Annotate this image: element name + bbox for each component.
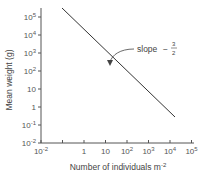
slope-sign: − [163,44,168,54]
x-tick-label: 105 [185,146,198,156]
y-tick-label: 104 [24,30,37,40]
x-tick-label: 104 [164,146,177,156]
data-line [62,8,175,117]
x-axis-title: Number of individuals m-2 [70,162,167,172]
y-tick-label: 1 [32,103,37,112]
slope-label: slope [137,44,158,54]
slope-numerator: 3 [172,41,176,47]
y-tick-label: 10-1 [22,120,37,130]
chart: 10510410310210110-110-2 10-2110102103104… [0,0,201,181]
arrow-head-icon [107,60,113,66]
y-tick-label: 105 [24,12,37,22]
y-tick-label: 102 [24,66,37,76]
x-tick-label: 10 [101,147,110,156]
series-line [62,8,175,117]
slope-denominator: 2 [172,50,176,56]
annotation-arrow [110,49,134,62]
y-tick-label: 103 [24,48,37,58]
x-tick-label: 103 [142,146,155,156]
y-tick-label: 10 [27,85,36,94]
y-axis-ticks: 10510410310210110-110-2 [22,12,41,148]
x-tick-label: 1 [82,147,87,156]
slope-annotation: slope − 3 2 [107,41,177,66]
x-tick-label: 102 [121,146,134,156]
x-tick-label: 10-2 [34,146,49,156]
y-axis-title: Mean weight (g) [4,49,14,110]
x-axis-ticks: 10-2110102103104105 [34,140,198,156]
